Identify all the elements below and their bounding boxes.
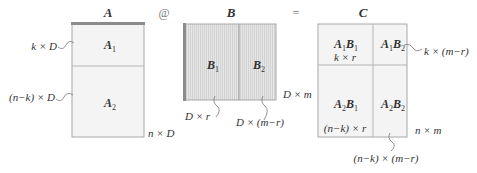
label-c21-shape: (n−k) × r (324, 122, 367, 135)
matrix-b-title: B (226, 5, 236, 20)
matrix-b-column-bar (183, 23, 186, 101)
label-b1-shape: D × r (184, 110, 211, 122)
matmul-operator: @ (158, 6, 169, 20)
matrix-c: C A1B1 k × r A1B2 k × (m−r) A2B1 (n−k) ×… (318, 5, 469, 165)
label-a2-shape: (n−k) × D (9, 91, 55, 104)
label-c11-shape: k × r (334, 51, 357, 63)
matrix-a-row-bar (71, 22, 145, 25)
label-a1-shape: k × D (31, 40, 57, 52)
matrix-b-shape: D × m (282, 88, 312, 100)
matrix-a: A A1 A2 k × D (n−k) × D n × D (9, 5, 174, 139)
matrix-c-title: C (359, 5, 368, 20)
matrix-a-title: A (103, 5, 113, 20)
matrix-b-box (184, 24, 276, 100)
matrix-b: B B1 B2 D × r D × (m−r) D × m (183, 5, 312, 129)
label-c22-shape: (n−k) × (m−r) (353, 152, 418, 165)
equals-operator: = (293, 6, 300, 20)
block-matrix-multiplication-diagram: A A1 A2 k × D (n−k) × D n × D @ B B1 B2 … (0, 0, 477, 173)
label-b2-shape: D × (m−r) (235, 116, 284, 129)
matrix-c-shape: n × m (415, 124, 441, 136)
connector-a2 (56, 93, 73, 100)
label-c12-shape: k × (m−r) (424, 45, 469, 58)
matrix-a-shape: n × D (148, 127, 174, 139)
